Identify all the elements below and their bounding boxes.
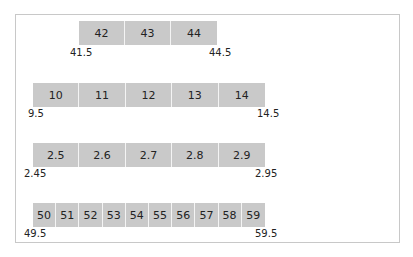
bin-cell: 54 [126,203,149,227]
bin-cell: 2.9 [219,143,265,167]
row-1-max-label: 44.5 [209,47,231,58]
bin-cell: 56 [172,203,195,227]
bin-cell: 51 [56,203,79,227]
bin-row-3: 2.5 2.6 2.7 2.8 2.9 [33,143,265,167]
bin-cell: 55 [149,203,172,227]
bin-row-4: 50 51 52 53 54 55 56 57 58 59 [33,203,265,227]
bin-cell: 10 [33,83,79,107]
bin-cell: 43 [125,21,171,45]
bin-cell: 14 [219,83,265,107]
row-4-min-label: 49.5 [24,228,46,239]
bin-cell: 2.5 [33,143,79,167]
row-3-max-label: 2.95 [255,168,277,179]
bin-cell: 2.8 [172,143,218,167]
bin-cell: 12 [126,83,172,107]
bin-row-2: 10 11 12 13 14 [33,83,265,107]
bin-cell: 2.6 [79,143,125,167]
row-4-max-label: 59.5 [255,228,277,239]
bin-cell: 2.7 [126,143,172,167]
bin-cell: 57 [195,203,218,227]
bin-cell: 13 [172,83,218,107]
row-2-max-label: 14.5 [257,108,279,119]
bin-cell: 50 [33,203,56,227]
bin-cell: 58 [219,203,242,227]
bin-row-1: 42 43 44 [79,21,217,45]
bin-cell: 52 [79,203,102,227]
row-1-min-label: 41.5 [70,47,92,58]
bin-cell: 53 [103,203,126,227]
bin-cell: 59 [242,203,265,227]
row-2-min-label: 9.5 [28,108,44,119]
row-3-min-label: 2.45 [24,168,46,179]
bin-cell: 11 [79,83,125,107]
bin-cell: 44 [171,21,217,45]
bin-cell: 42 [79,21,125,45]
